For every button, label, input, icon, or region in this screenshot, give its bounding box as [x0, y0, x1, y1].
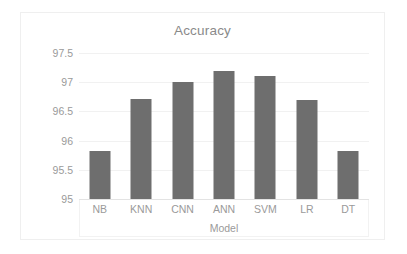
bar-slot [79, 53, 120, 199]
bar-ann[interactable] [213, 71, 234, 199]
y-axis-tick-label: 97.5 [29, 47, 73, 59]
bar-slot [162, 53, 203, 199]
x-axis-tick-label: NB [92, 203, 107, 215]
x-axis-line [79, 199, 369, 200]
x-axis-tick-labels: NBKNNCNNANNSVMLRDT [79, 203, 369, 223]
x-axis-tick-label: LR [300, 203, 313, 215]
y-axis-tick-label: 97 [29, 76, 73, 88]
x-axis-tick-label: KNN [130, 203, 152, 215]
bar-svm[interactable] [255, 76, 276, 199]
bar-cnn[interactable] [172, 82, 193, 199]
bar-slot [120, 53, 161, 199]
x-axis-tick-label: DT [341, 203, 355, 215]
y-axis-tick-label: 96.5 [29, 105, 73, 117]
bar-slot [286, 53, 327, 199]
chart-frame: Accuracy 97.59796.59695.595 NBKNNCNNANNS… [20, 12, 385, 240]
bar-slot [245, 53, 286, 199]
bar-nb[interactable] [89, 151, 110, 199]
bar-slot [328, 53, 369, 199]
x-axis-tick-label: CNN [171, 203, 194, 215]
x-axis-title: Model [79, 222, 369, 234]
y-axis-tick-label: 95.5 [29, 164, 73, 176]
bar-knn[interactable] [131, 99, 152, 199]
x-axis-tick-label: ANN [213, 203, 235, 215]
bar-lr[interactable] [296, 100, 317, 199]
chart-title: Accuracy [21, 23, 384, 38]
y-axis-tick-label: 96 [29, 135, 73, 147]
x-axis-tick-label: SVM [254, 203, 277, 215]
bar-slot [203, 53, 244, 199]
bar-dt[interactable] [338, 151, 359, 199]
y-axis-tick-label: 95 [29, 193, 73, 205]
plot-area [79, 53, 369, 199]
y-axis-tick-labels: 97.59796.59695.595 [27, 53, 73, 199]
